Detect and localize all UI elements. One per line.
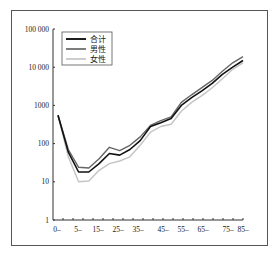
legend-label: 合计 — [90, 34, 106, 44]
axes: 110100100010 000100 0000–5–15–25–35–45–5… — [25, 25, 249, 235]
x-tick-label: 85– — [237, 225, 249, 234]
y-tick-label: 1 — [45, 216, 49, 225]
y-tick-label: 1000 — [34, 101, 49, 110]
series-line-1 — [58, 57, 243, 168]
x-tick-label: 65– — [197, 225, 209, 234]
line-chart: 110100100010 000100 0000–5–15–25–35–45–5… — [0, 0, 277, 258]
y-tick-label: 100 000 — [25, 25, 50, 34]
y-tick-label: 10 — [42, 177, 50, 186]
x-tick-label: 5– — [74, 225, 82, 234]
legend-label: 男性 — [90, 44, 106, 54]
x-tick-label: 75– — [222, 225, 234, 234]
x-tick-label: 55– — [177, 225, 189, 234]
x-tick-label: 35– — [132, 225, 144, 234]
legend: 合计男性女性 — [62, 32, 112, 65]
x-tick-label: 15– — [92, 225, 104, 234]
y-tick-label: 100 — [38, 139, 50, 148]
y-tick-label: 10 000 — [28, 63, 49, 72]
series-lines — [58, 57, 243, 182]
x-tick-label: 45– — [157, 225, 169, 234]
x-tick-label: 25– — [112, 225, 124, 234]
x-tick-label: 0– — [53, 225, 61, 234]
legend-label: 女性 — [90, 54, 106, 64]
